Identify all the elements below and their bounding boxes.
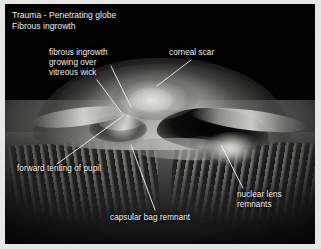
leader-nuclear-lens (221, 145, 243, 188)
vitreous-wick-structure (95, 95, 155, 134)
leader-forward-tenting (57, 116, 123, 164)
annotation-fibrous-ingrowth: fibrous ingrowth growing over vitreous w… (49, 48, 108, 79)
fibrous-ingrowth-structure (113, 78, 199, 120)
limbus-wound-lip-right (190, 103, 308, 137)
anterior-chamber-void-left (89, 116, 147, 142)
leader-fibrous-ingrowth-b (97, 80, 121, 112)
limbus-wound-lip-left (30, 102, 127, 132)
figure-title: Trauma - Penetrating globe Fibrous ingro… (12, 10, 116, 31)
annotation-capsular-bag-remnant: capsular bag remnant (110, 213, 190, 223)
leader-capsular-bag (131, 145, 155, 210)
leader-corneal-scar (157, 60, 191, 86)
anterior-chamber-void-right (155, 103, 270, 157)
nuclear-lens-remnant-tail (181, 136, 225, 158)
forward-tented-pupil-structure (93, 116, 145, 150)
annotation-nuclear-lens-remnants: nuclear lens remnants (237, 190, 282, 210)
pathology-figure: Trauma - Penetrating globe Fibrous ingro… (0, 0, 321, 249)
leader-fibrous-ingrowth-a (111, 66, 131, 107)
ciliary-processes-right (169, 136, 315, 238)
ciliary-band (5, 132, 315, 158)
annotation-corneal-scar: corneal scar (169, 48, 214, 58)
specimen-photograph: Trauma - Penetrating globe Fibrous ingro… (5, 4, 315, 244)
corneal-scar-structure (129, 88, 173, 112)
annotation-forward-tenting-of-pupil: forward tenting of pupil (17, 164, 101, 174)
nuclear-lens-remnant-structure (201, 132, 263, 168)
capsular-bag-remnant-structure (125, 136, 246, 162)
